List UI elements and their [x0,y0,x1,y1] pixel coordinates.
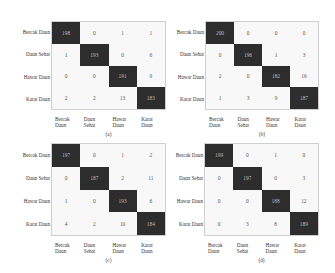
column-label-line: Daun [266,248,291,254]
column-label: BercakDaun [204,242,233,254]
matrix-cell: 4 [52,212,80,235]
diagonal-cell: 184 [137,212,165,235]
column-label: KaratDaun [291,116,320,128]
matrix-cell: 3 [233,212,261,235]
matrix-cell: 0 [205,190,233,213]
row-label: Bercak Daun [177,29,204,35]
row-label: Hawar Daun [24,74,50,80]
column-label-line: Sehat [238,122,263,128]
matrix-cell: 3 [290,167,318,190]
matrix-cell: 1 [262,144,290,167]
matrix-cell: 13 [109,87,137,109]
column-label-line: Daun [141,122,166,128]
matrix-cell: 0 [80,22,108,44]
panel-caption-b: (b) [205,131,319,137]
diagonal-cell: 182 [262,66,290,88]
matrix-cell: 0 [233,144,261,167]
row-label: Daun Sehat [180,51,204,57]
matrix-cell: 0 [52,66,80,88]
column-label: HawarDaun [109,242,138,254]
column-label: KaratDaun [290,242,319,254]
diagonal-cell: 193 [80,44,108,66]
diagonal-cell: 188 [262,190,290,213]
diagonal-cell: 183 [137,87,165,109]
column-labels: BercakDaunDaunSehatHawarDaunKaratDaun [51,116,166,128]
row-label: Karat Daun [26,221,50,227]
diagonal-cell: 199 [205,144,233,167]
matrix-cell: 1 [109,22,137,44]
matrix-cell: 8 [262,212,290,235]
row-label: Daun Sehat [26,175,50,181]
confusion-matrix-c: 19701201872111019364210184 [51,143,166,236]
column-label-line: Daun [208,248,233,254]
row-label: Karat Daun [26,96,50,102]
column-label-line: Sehat [237,248,262,254]
matrix-cell: 1 [52,190,80,213]
matrix-cell: 0 [262,22,290,44]
column-label-line: Daun [294,248,319,254]
row-label: Hawar Daun [178,74,204,80]
diagonal-cell: 198 [52,22,80,44]
matrix-cell: 0 [233,190,261,213]
matrix-cell: 2 [137,144,165,167]
column-label-line: Sehat [84,248,109,254]
matrix-cell: 1 [206,87,234,109]
matrix-cell: 0 [290,22,318,44]
diagonal-cell: 187 [80,167,108,190]
column-labels: BercakDaunDaunSehatHawarDaunKaratDaun [51,242,166,254]
row-label: Karat Daun [179,221,203,227]
column-label: DaunSehat [234,116,263,128]
matrix-cell: 6 [137,190,165,213]
matrix-cell: 0 [234,22,262,44]
diagonal-cell: 197 [52,144,80,167]
column-label-line: Daun [209,122,234,128]
column-label-line: Sehat [84,122,109,128]
column-label: KaratDaun [137,116,166,128]
column-label: BercakDaun [51,242,80,254]
column-label: DaunSehat [80,116,109,128]
matrix-cell: 12 [290,190,318,213]
matrix-cell: 9 [262,87,290,109]
column-label: HawarDaun [262,116,291,128]
diagonal-cell: 197 [233,167,261,190]
column-label: DaunSehat [233,242,262,254]
diagonal-cell: 191 [109,66,137,88]
row-label: Bercak Daun [176,152,203,158]
diagonal-cell: 187 [290,87,318,109]
matrix-cell: 0 [80,66,108,88]
matrix-cell: 1 [137,22,165,44]
matrix-cell: 0 [262,167,290,190]
matrix-cell: 2 [109,167,137,190]
confusion-matrix-b: 2000000196132018216139187 [205,21,319,110]
column-label-line: Daun [55,122,80,128]
column-label: BercakDaun [205,116,234,128]
row-label: Daun Sehat [26,51,50,57]
matrix-cell: 2 [206,66,234,88]
row-label: Hawar Daun [177,198,203,204]
row-label: Bercak Daun [23,29,50,35]
matrix-cell: 2 [80,87,108,109]
column-labels: BercakDaunDaunSehatHawarDaunKaratDaun [204,242,319,254]
matrix-cell: 0 [52,167,80,190]
matrix-cell: 0 [205,167,233,190]
column-labels: BercakDaunDaunSehatHawarDaunKaratDaun [205,116,319,128]
column-label-line: Daun [113,248,138,254]
matrix-cell: 1 [52,44,80,66]
panel-caption-a: (a) [51,131,166,137]
column-label: KaratDaun [137,242,166,254]
row-label: Hawar Daun [24,198,50,204]
row-label: Karat Daun [180,96,204,102]
matrix-cell: 0 [205,212,233,235]
matrix-cell: 6 [137,44,165,66]
column-label: HawarDaun [109,116,138,128]
column-label: HawarDaun [262,242,291,254]
panel-caption-d: (d) [204,257,319,263]
matrix-cell: 0 [234,66,262,88]
confusion-matrix-a: 1980111193060019192213183 [51,21,166,110]
matrix-cell: 3 [234,87,262,109]
matrix-cell: 0 [206,44,234,66]
matrix-cell: 0 [290,144,318,167]
matrix-cell: 0 [80,144,108,167]
column-label-line: Daun [295,122,320,128]
diagonal-cell: 189 [290,212,318,235]
